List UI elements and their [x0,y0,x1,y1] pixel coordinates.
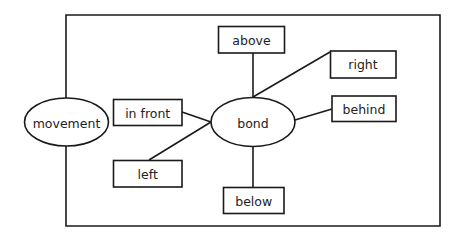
node-above: above [219,27,285,54]
edge-bond-in-front [182,112,211,122]
node-movement: movement [25,98,109,146]
right-label: right [348,57,377,72]
node-below: below [224,188,285,214]
above-label: above [232,33,271,48]
left-label: left [138,167,158,182]
concept-map-diagram: movement bond above right behind in fron… [0,0,463,238]
node-bond: bond [211,98,295,147]
node-left: left [114,161,183,188]
edge-bond-left [149,122,211,160]
movement-label: movement [33,116,101,131]
node-right: right [331,51,397,78]
node-behind: behind [332,96,396,122]
below-label: below [235,194,272,209]
behind-label: behind [343,102,386,117]
edge-bond-behind [295,109,332,120]
node-in-front: in front [114,100,183,126]
in-front-label: in front [125,106,170,121]
bond-label: bond [237,116,268,131]
edge-bond-right [253,52,330,97]
